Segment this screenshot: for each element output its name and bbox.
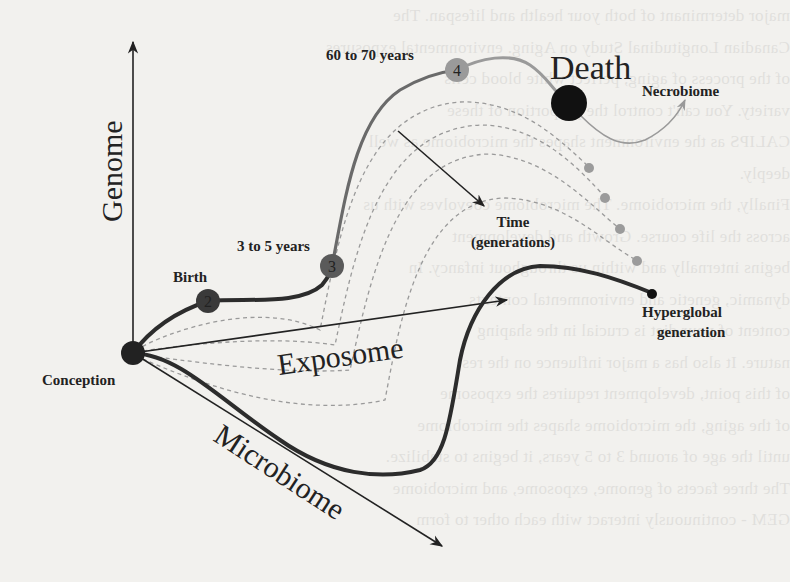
conception-label: Conception xyxy=(42,372,116,388)
generation-dot xyxy=(615,224,625,234)
node-number: 4 xyxy=(453,62,461,79)
life-trajectory-late xyxy=(457,58,560,95)
hyperglobal-dot xyxy=(647,289,657,299)
generation-dot xyxy=(632,256,642,266)
60-to-70-years-label: 60 to 70 years xyxy=(326,47,414,63)
necrobiome-label: Necrobiome xyxy=(642,83,720,99)
generation-dot xyxy=(600,193,610,203)
generation-dots xyxy=(584,163,642,266)
node-4-60-to-70-years: 4 xyxy=(445,58,469,82)
time-label: Time xyxy=(496,214,529,230)
birth-label: Birth xyxy=(173,269,208,285)
life-trajectory-adult xyxy=(332,70,457,266)
microbiome-axis-arrow xyxy=(133,353,442,546)
node-1-conception: 1 xyxy=(121,341,145,365)
genome-label: Genome xyxy=(95,120,128,222)
generation-label: generation xyxy=(657,324,726,340)
life-trajectory-early xyxy=(133,266,332,353)
microbiome-label: Microbiome xyxy=(209,417,351,525)
node-2-birth: 2 xyxy=(196,289,220,313)
node-number: 3 xyxy=(328,258,336,275)
time-arrow xyxy=(398,131,484,206)
generation-dot xyxy=(584,163,594,173)
necrobiome-curve xyxy=(580,100,685,143)
exposome-label: Exposome xyxy=(275,331,405,381)
generations-label: (generations) xyxy=(471,234,555,251)
hyperglobal-label: Hyperglobal xyxy=(642,304,722,320)
death-label: Death xyxy=(550,49,631,86)
node-3-3-to-5-years: 3 xyxy=(320,254,344,278)
node-number: 2 xyxy=(204,293,212,310)
3-to-5-years-label: 3 to 5 years xyxy=(237,238,310,254)
node-number: 1 xyxy=(129,345,137,362)
death-node xyxy=(551,85,587,121)
